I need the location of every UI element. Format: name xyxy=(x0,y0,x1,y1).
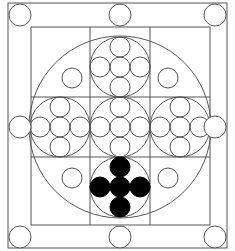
quadrant-circle-upper-right xyxy=(158,68,178,88)
cross-cells xyxy=(30,37,210,217)
filled-dot xyxy=(110,177,130,197)
small-circle xyxy=(110,137,130,157)
frame-circle-top-left xyxy=(9,4,31,26)
cross-cell-right xyxy=(150,97,210,157)
small-circle xyxy=(30,117,50,137)
filled-dot xyxy=(130,177,150,197)
small-circle xyxy=(170,97,190,117)
small-circle xyxy=(110,77,130,97)
small-circle xyxy=(90,117,110,137)
mandala-diagram xyxy=(0,0,235,251)
small-circle xyxy=(170,117,190,137)
frame-circle-bottom-right xyxy=(204,226,226,248)
cross-cell-left xyxy=(30,97,90,157)
small-circle xyxy=(110,57,130,77)
cell-circle xyxy=(150,97,210,157)
cross-cell-top xyxy=(90,37,150,97)
quadrant-circle-lower-left xyxy=(62,168,82,188)
small-circle xyxy=(170,137,190,157)
small-circle xyxy=(110,117,130,137)
frame-circle-bottom-middle xyxy=(109,226,131,248)
small-circle xyxy=(110,97,130,117)
small-circle xyxy=(150,117,170,137)
frame-circle-middle-right xyxy=(204,116,226,138)
small-circle xyxy=(110,37,130,57)
small-circle xyxy=(50,97,70,117)
frame-circle-middle-left xyxy=(9,116,31,138)
small-circle xyxy=(130,57,150,77)
cell-circle xyxy=(90,97,150,157)
small-circle xyxy=(50,117,70,137)
cross-cell-center xyxy=(90,97,150,157)
filled-dot xyxy=(90,177,110,197)
frame-circle-top-right xyxy=(204,4,226,26)
small-circle xyxy=(130,117,150,137)
cross-cell-bottom xyxy=(90,157,150,217)
small-circle xyxy=(90,57,110,77)
frame-circle-top-middle xyxy=(109,4,131,26)
small-circle xyxy=(50,137,70,157)
cell-circle xyxy=(30,97,90,157)
quadrant-circle-lower-right xyxy=(158,168,178,188)
filled-dot xyxy=(110,157,130,177)
quadrant-circle-upper-left xyxy=(62,68,82,88)
filled-dot xyxy=(110,197,130,217)
frame-circle-bottom-left xyxy=(9,226,31,248)
cell-circle xyxy=(90,37,150,97)
small-circle xyxy=(70,117,90,137)
